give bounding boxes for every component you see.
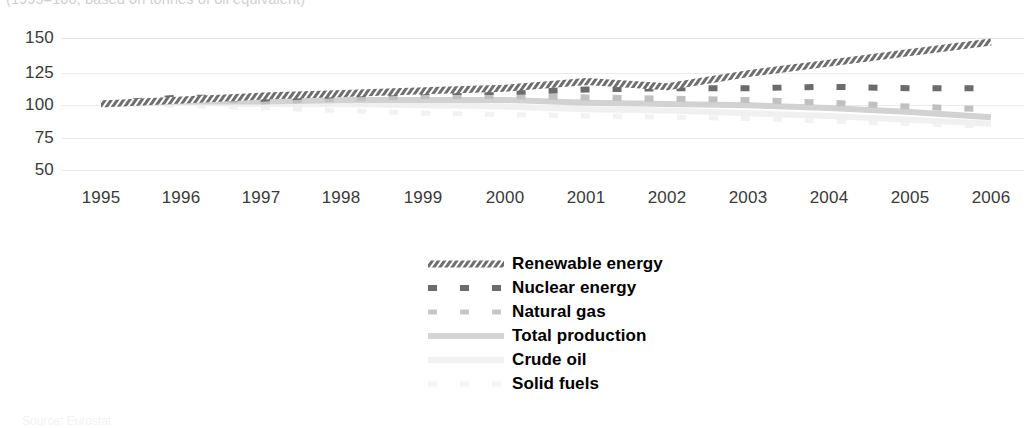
legend-label-crude-oil: Crude oil <box>506 350 587 370</box>
legend-swatch-crude-oil <box>426 351 506 369</box>
legend-swatch-nuclear-energy <box>426 279 506 297</box>
legend-item-total-production[interactable]: Total production <box>426 324 746 348</box>
legend-swatch-total-production <box>426 327 506 345</box>
legend-label-solid-fuels: Solid fuels <box>506 374 599 394</box>
series-line-renewable-energy <box>101 42 991 104</box>
legend-item-solid-fuels[interactable]: Solid fuels <box>426 372 746 396</box>
source-note: Source: Eurostat <box>22 414 111 428</box>
legend-label-total-production: Total production <box>506 326 646 346</box>
legend-item-nuclear-energy[interactable]: Nuclear energy <box>426 276 746 300</box>
series-line-crude-oil <box>101 103 991 124</box>
legend-item-renewable-energy[interactable]: Renewable energy <box>426 252 746 276</box>
legend-swatch-natural-gas <box>426 303 506 321</box>
legend-swatch-solid-fuels <box>426 375 506 393</box>
legend-item-crude-oil[interactable]: Crude oil <box>426 348 746 372</box>
chart-legend: Renewable energy Nuclear energy Natural … <box>426 252 746 396</box>
legend-label-renewable-energy: Renewable energy <box>506 254 663 274</box>
legend-label-nuclear-energy: Nuclear energy <box>506 278 636 298</box>
legend-item-natural-gas[interactable]: Natural gas <box>426 300 746 324</box>
legend-swatch-renewable-energy <box>426 255 506 273</box>
legend-label-natural-gas: Natural gas <box>506 302 606 322</box>
